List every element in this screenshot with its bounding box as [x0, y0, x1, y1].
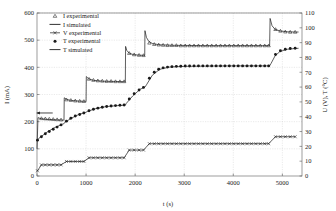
- y-left-tick-label: 0: [31, 172, 34, 179]
- y-right-tick-label: 20: [305, 143, 312, 150]
- y-right-tick-label: 30: [305, 128, 312, 135]
- y-right-tick-label: 90: [305, 39, 312, 46]
- y-right-tick-label: 40: [305, 113, 312, 120]
- y-right-tick-label: 0: [305, 172, 308, 179]
- legend-label: T experimental: [63, 37, 101, 44]
- legend-label: V experimental: [63, 29, 101, 36]
- y-left-tick-label: 400: [24, 64, 34, 71]
- legend-label: I experimental: [63, 12, 99, 19]
- y-right-tick-label: 100: [305, 24, 315, 31]
- y-right-tick-label: 10: [305, 157, 312, 164]
- y-left-tick-label: 600: [24, 9, 34, 16]
- y-left-tick-label: 500: [24, 36, 34, 43]
- legend-label: T simulated: [63, 46, 93, 53]
- x-tick-label: 5000: [276, 179, 289, 186]
- y-left-tick-label: 300: [24, 91, 34, 98]
- y-right-tick-label: 70: [305, 69, 312, 76]
- y-right-tick-label: 50: [305, 98, 312, 105]
- y-right-tick-label: 60: [305, 83, 312, 90]
- x-tick-label: 1000: [80, 179, 93, 186]
- y-right-tick-label: 80: [305, 54, 312, 61]
- x-tick-label: 4000: [227, 179, 240, 186]
- chart-canvas: 010002000300040005000 010020030040050060…: [0, 0, 336, 211]
- legend-label: I simulated: [63, 21, 92, 28]
- y-left-axis-label: I (mA): [3, 86, 11, 104]
- figure-container: 010002000300040005000 010020030040050060…: [0, 0, 336, 211]
- y-right-axis-label: U (V), T (°C): [321, 77, 329, 112]
- y-left-tick-label: 100: [24, 145, 34, 152]
- x-tick-label: 3000: [178, 179, 191, 186]
- x-tick-label: 2000: [129, 179, 142, 186]
- x-tick-label: 0: [35, 179, 38, 186]
- x-axis-label: t (s): [163, 200, 173, 208]
- y-left-tick-label: 200: [24, 118, 34, 125]
- y-right-tick-label: 110: [305, 9, 315, 16]
